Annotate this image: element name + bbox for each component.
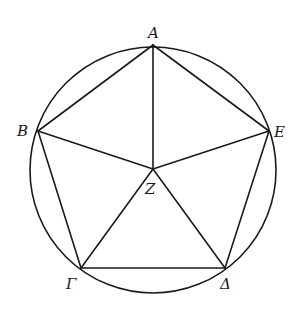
pentagon-circle-diagram: A B E Z Γ Δ bbox=[0, 0, 308, 326]
label-E: E bbox=[273, 123, 285, 141]
radius-ZE bbox=[153, 131, 269, 169]
edge-EA bbox=[153, 45, 269, 131]
label-Z: Z bbox=[144, 180, 156, 198]
edge-AB bbox=[38, 45, 153, 131]
radius-ZGamma bbox=[81, 169, 153, 268]
label-A: A bbox=[146, 24, 159, 42]
radius-ZDelta bbox=[153, 169, 225, 268]
radius-ZB bbox=[38, 131, 153, 169]
label-Gamma: Γ bbox=[65, 275, 77, 293]
label-B: B bbox=[16, 122, 28, 140]
edge-DeltaE bbox=[225, 131, 269, 268]
edge-BGamma bbox=[38, 131, 81, 268]
label-Delta: Δ bbox=[219, 275, 231, 293]
